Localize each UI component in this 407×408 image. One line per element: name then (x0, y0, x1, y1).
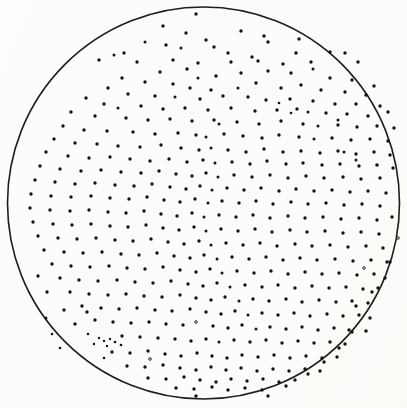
data-point (359, 177, 362, 180)
data-point (271, 202, 274, 205)
data-point (212, 118, 215, 121)
data-point (95, 142, 98, 145)
data-point (350, 78, 353, 81)
data-point (243, 283, 246, 286)
data-point (260, 388, 263, 391)
data-point (253, 109, 256, 112)
data-point (181, 323, 184, 326)
data-point (192, 225, 195, 228)
data-point (317, 125, 320, 128)
data-point (333, 102, 336, 105)
data-point (221, 94, 224, 97)
data-point (239, 366, 242, 369)
data-point (346, 245, 349, 248)
data-point (194, 394, 197, 397)
data-point (99, 168, 102, 171)
data-point (248, 162, 251, 165)
data-point (294, 187, 297, 190)
data-point (225, 356, 228, 359)
data-point (108, 224, 111, 227)
data-point (205, 136, 208, 139)
data-point (58, 167, 61, 170)
data-point (194, 368, 197, 371)
data-point (306, 202, 309, 205)
data-point (254, 199, 257, 202)
data-point (349, 138, 352, 141)
data-point (73, 322, 76, 325)
data-point (381, 246, 384, 249)
data-point (229, 106, 232, 109)
data-point (226, 148, 229, 151)
data-point (243, 386, 246, 389)
data-point (343, 151, 346, 154)
data-point (239, 29, 242, 32)
data-point (129, 321, 132, 324)
data-point (80, 304, 83, 307)
data-point (149, 237, 152, 240)
data-point (217, 213, 220, 216)
data-point (177, 228, 180, 231)
data-point (174, 386, 177, 389)
data-point (153, 308, 156, 311)
data-point (126, 92, 129, 95)
data-point (322, 360, 325, 363)
data-point (386, 139, 389, 142)
data-point (262, 147, 265, 150)
data-point (244, 150, 247, 153)
data-point (93, 181, 96, 184)
data-point (185, 160, 188, 163)
data-point (87, 292, 90, 295)
data-point (223, 295, 226, 298)
data-point (106, 345, 108, 347)
data-point (253, 227, 256, 230)
data-point (115, 278, 118, 281)
data-point (85, 310, 88, 313)
data-point (192, 387, 195, 390)
data-point (139, 171, 142, 174)
data-point (341, 314, 344, 317)
data-point (125, 364, 128, 367)
data-point (89, 194, 92, 197)
data-point (355, 273, 358, 276)
data-point (354, 304, 357, 307)
data-point (120, 76, 123, 79)
data-point (133, 280, 136, 283)
data-point (315, 258, 318, 261)
data-point (245, 379, 248, 382)
data-point (131, 130, 134, 133)
data-point (388, 153, 391, 156)
data-point (33, 178, 36, 181)
data-point (175, 214, 178, 217)
data-point (252, 271, 255, 274)
circular-field-scatter-plot (0, 0, 407, 408)
data-point (337, 271, 340, 274)
data-point (208, 267, 211, 270)
data-point (348, 190, 351, 193)
data-point (303, 216, 306, 219)
data-point (98, 337, 100, 339)
data-point (178, 268, 181, 271)
data-point (320, 163, 323, 166)
data-point (157, 169, 160, 172)
data-point (377, 232, 380, 235)
data-point (372, 84, 375, 87)
data-point (31, 220, 34, 223)
data-point (311, 99, 314, 102)
data-point (225, 186, 228, 189)
data-point (194, 133, 197, 136)
data-point (62, 250, 65, 253)
data-point (143, 365, 146, 368)
data-point (179, 146, 182, 149)
data-point (350, 299, 353, 302)
data-point (337, 119, 340, 122)
data-point (339, 217, 342, 220)
data-point (260, 136, 263, 139)
data-point (66, 154, 69, 157)
data-point (258, 241, 261, 244)
data-point (343, 90, 346, 93)
data-point (266, 69, 269, 72)
data-point (345, 112, 348, 115)
data-point (269, 269, 272, 272)
data-point (196, 61, 199, 64)
data-point (279, 119, 282, 122)
